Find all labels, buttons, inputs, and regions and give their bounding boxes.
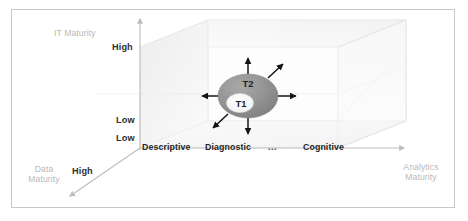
tick-analytics-descriptive: Descriptive xyxy=(142,143,191,153)
tick-analytics-ellipsis: ... xyxy=(268,143,277,153)
axis-label-it-maturity: IT Maturity xyxy=(54,29,96,39)
maturity-cube-figure: IT Maturity High Low Low High Data Matur… xyxy=(0,0,468,221)
tick-analytics-cognitive: Cognitive xyxy=(303,143,344,153)
tick-it-maturity-low: Low xyxy=(116,115,135,125)
tick-data-maturity-low: Low xyxy=(116,133,135,143)
axis-label-analytics-maturity: Analytics Maturity xyxy=(390,163,452,182)
tick-analytics-diagnostic: Diagnostic xyxy=(205,143,251,153)
tick-it-maturity-high: High xyxy=(112,42,133,52)
blob-label-t1: T1 xyxy=(231,98,251,109)
blob-label-t2: T2 xyxy=(238,78,258,89)
tick-data-maturity-high: High xyxy=(72,166,93,176)
axis-label-data-maturity: Data Maturity xyxy=(20,165,68,184)
